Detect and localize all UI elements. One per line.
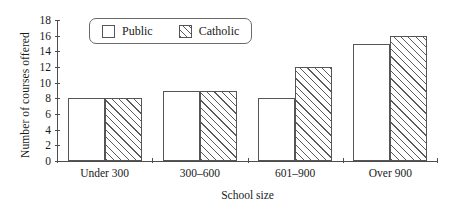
y-axis-tick-label: 14 [29, 46, 51, 56]
legend-swatch-public-icon [102, 25, 115, 38]
y-axis-tick-label: 4 [29, 125, 51, 135]
x-axis-title: School size [57, 189, 438, 201]
bar-catholic-1 [105, 98, 142, 161]
legend-entry-public[interactable]: Public [102, 25, 153, 38]
bar-catholic-2 [200, 91, 237, 162]
bar-public-2 [163, 91, 200, 162]
x-axis-category-label: Under 300 [57, 167, 152, 179]
x-axis-tick-mark [437, 158, 438, 163]
y-axis-tick-labels: 024681012141618 [27, 0, 51, 212]
chart-legend: Public Catholic [89, 18, 252, 44]
y-axis-tick-label: 2 [29, 140, 51, 150]
bar-catholic-4 [390, 36, 427, 161]
x-axis-tick-mark [343, 158, 344, 163]
x-axis-tick-mark [57, 158, 58, 163]
bar-public-1 [68, 98, 105, 161]
y-axis-tick-label: 12 [29, 62, 51, 72]
x-axis-tick-mark [248, 158, 249, 163]
x-axis-tick-mark [152, 158, 153, 163]
bar-public-4 [353, 44, 390, 162]
bar-chart: Number of courses offered 02468101214161… [0, 0, 454, 212]
y-axis-tick-label: 8 [29, 93, 51, 103]
legend-label-public: Public [122, 25, 153, 38]
legend-entry-catholic[interactable]: Catholic [179, 25, 240, 38]
y-axis-tick-label: 6 [29, 109, 51, 119]
x-axis-category-label: Over 900 [343, 167, 438, 179]
x-axis-category-label: 601–900 [248, 167, 343, 179]
y-axis-tick-label: 0 [29, 156, 51, 166]
bar-catholic-3 [295, 67, 332, 161]
legend-swatch-catholic-icon [179, 25, 192, 38]
y-axis-tick-label: 16 [29, 31, 51, 41]
legend-label-catholic: Catholic [199, 25, 240, 38]
y-axis-tick-label: 18 [29, 15, 51, 25]
x-axis-category-label: 300–600 [152, 167, 247, 179]
bar-public-3 [258, 98, 295, 161]
y-axis-tick-label: 10 [29, 78, 51, 88]
